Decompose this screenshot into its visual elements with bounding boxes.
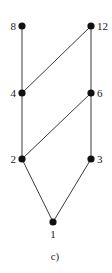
node-label-4: 4 [11,87,17,99]
node-1 [49,218,56,225]
node-label-1: 1 [50,228,56,240]
node-label-2: 2 [11,153,17,165]
node-6 [87,89,94,96]
node-label-3: 3 [97,153,103,165]
hasse-diagram: 12346812 c) [0,0,112,273]
node-2 [18,155,25,162]
edges-group [22,26,91,222]
node-12 [87,22,94,29]
node-label-6: 6 [97,87,103,99]
node-label-8: 8 [11,20,17,32]
edge-1-3 [53,159,91,222]
labels-group: 12346812 [11,20,109,240]
edge-4-12 [22,26,91,93]
node-8 [18,22,25,29]
node-3 [87,155,94,162]
nodes-group [18,22,94,225]
edge-1-2 [22,159,53,222]
node-label-12: 12 [97,20,108,32]
diagram-caption: c) [51,250,60,263]
edge-2-6 [22,93,91,159]
node-4 [18,89,25,96]
